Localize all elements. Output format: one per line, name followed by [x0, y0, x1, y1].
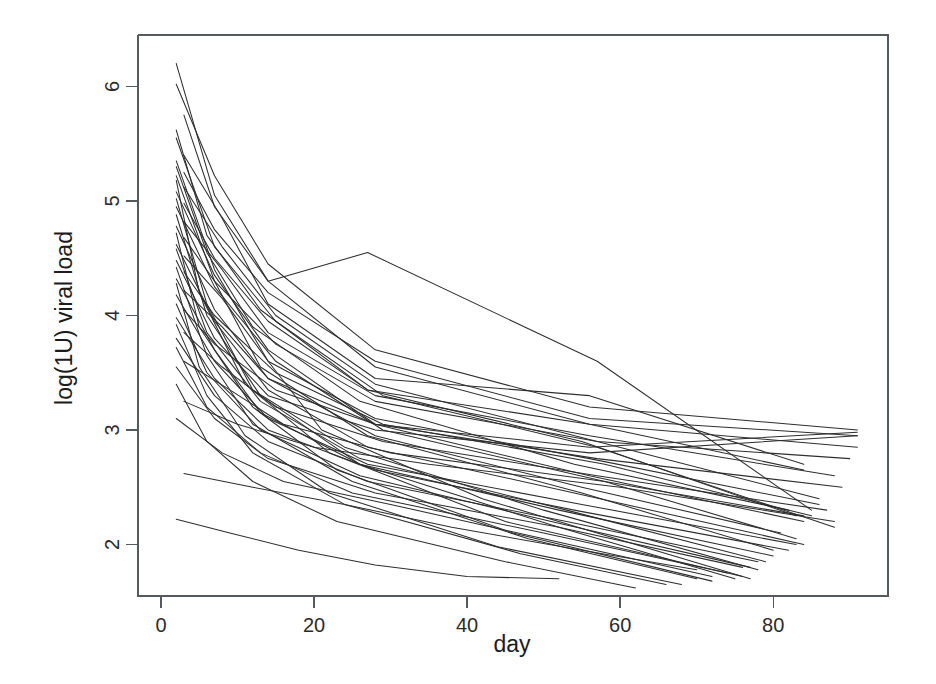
x-tick-label: 0	[155, 614, 166, 636]
x-tick-label: 20	[303, 614, 325, 636]
y-tick-label: 4	[101, 310, 123, 321]
y-tick-label: 3	[101, 424, 123, 435]
y-tick-label: 2	[101, 539, 123, 550]
x-tick-label: 80	[762, 614, 784, 636]
x-tick-label: 60	[609, 614, 631, 636]
x-tick-label: 40	[456, 614, 478, 636]
plot-background	[0, 0, 936, 684]
figure-container: 020406080 23456 day log(1U) viral load	[0, 0, 936, 684]
y-tick-label: 5	[101, 195, 123, 206]
x-axis-title: day	[493, 631, 531, 657]
y-tick-label: 6	[101, 81, 123, 92]
viral-load-spaghetti-plot: 020406080 23456 day log(1U) viral load	[0, 0, 936, 684]
y-axis-title: log(1U) viral load	[51, 231, 77, 405]
